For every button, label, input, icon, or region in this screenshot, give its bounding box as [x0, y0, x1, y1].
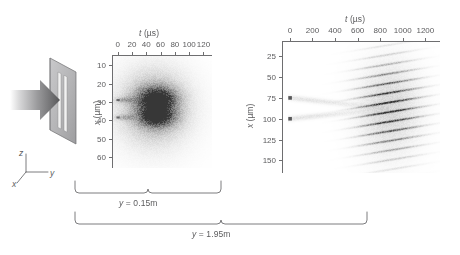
near-field-x-tick-label: 120: [197, 40, 210, 49]
far-field-distance-label: y = 1.95m: [192, 229, 230, 239]
axis-label-x: x: [11, 179, 17, 187]
far-field-density-canvas: [282, 42, 440, 173]
near-field-x-label-unit: (µs): [141, 28, 159, 38]
near-field-x-tick-label: 40: [142, 40, 151, 49]
near-field-y-tick: [109, 157, 112, 158]
far-field-x-tick: [290, 38, 291, 41]
far-field-panel: [282, 42, 440, 173]
near-field-y-tick-label: 60: [97, 152, 106, 161]
far-field-y-tick: [279, 98, 282, 99]
far-field-y-axis-label: x (µm): [245, 104, 255, 128]
axis-label-y: y: [49, 168, 55, 178]
near-field-x-tick: [132, 52, 133, 55]
near-field-x-tick: [189, 52, 190, 55]
far-field-y-tick-label: 150: [263, 156, 276, 165]
far-field-x-tick-label: 1000: [394, 26, 412, 35]
far-field-y-tick-label: 100: [263, 114, 276, 123]
near-field-distance-label: y = 0.15m: [119, 198, 157, 208]
far-field-x-tick-label: 0: [288, 26, 292, 35]
near-field-y-label-unit: (µm): [92, 101, 102, 121]
near-field-y-tick: [109, 139, 112, 140]
far-field-y-tick: [279, 119, 282, 120]
axis-label-z: z: [18, 148, 24, 158]
near-field-x-axis: [112, 55, 212, 56]
far-field-x-axis-label: t (µs): [345, 14, 365, 24]
far-field-y-tick: [279, 56, 282, 57]
far-field-x-tick-label: 200: [306, 26, 319, 35]
far-field-x-tick-label: 1200: [416, 26, 434, 35]
figure-root: z y x 020406080100120102030405060 t (µs)…: [0, 0, 460, 255]
near-field-distance-bracket: [74, 180, 224, 196]
near-field-y-tick: [109, 84, 112, 85]
far-field-x-tick: [358, 38, 359, 41]
near-field-y-axis-label: x (µm): [92, 101, 102, 125]
near-field-x-tick-label: 60: [156, 40, 165, 49]
far-field-y-tick-label: 50: [267, 73, 276, 82]
far-field-y-tick-label: 75: [267, 93, 276, 102]
far-field-y-label-symbol: x: [245, 124, 255, 128]
far-field-y-tick: [279, 140, 282, 141]
schematic-svg: z y x: [8, 52, 100, 187]
far-field-y-axis: [282, 41, 283, 173]
far-field-y-tick: [279, 160, 282, 161]
near-field-x-tick-label: 100: [182, 40, 195, 49]
near-field-x-axis-label: t (µs): [139, 28, 159, 38]
near-field-x-tick: [118, 52, 119, 55]
near-field-y-tick: [109, 102, 112, 103]
near-field-x-tick: [203, 52, 204, 55]
near-field-x-tick: [146, 52, 147, 55]
near-field-x-tick-label: 20: [128, 40, 137, 49]
near-field-y-label-symbol: x: [92, 121, 102, 125]
far-field-x-tick: [335, 38, 336, 41]
far-field-y-label-unit: (µm): [245, 104, 255, 124]
near-field-y-axis: [112, 55, 113, 168]
near-field-distance-value: = 0.15m: [123, 198, 157, 208]
near-field-x-tick: [161, 52, 162, 55]
far-field-x-label-unit: (µs): [347, 14, 365, 24]
near-field-y-tick: [109, 65, 112, 66]
near-field-x-tick: [175, 52, 176, 55]
near-field-y-tick-label: 20: [97, 79, 106, 88]
far-field-y-tick: [279, 77, 282, 78]
far-field-x-tick: [312, 38, 313, 41]
near-field-y-tick-label: 10: [97, 61, 106, 70]
far-field-x-tick-label: 800: [373, 26, 386, 35]
far-field-x-tick: [425, 38, 426, 41]
far-field-x-tick-label: 600: [351, 26, 364, 35]
near-field-x-tick-label: 0: [115, 40, 119, 49]
near-field-y-tick-label: 50: [97, 134, 106, 143]
near-field-x-tick-label: 80: [170, 40, 179, 49]
coordinate-axes-triad: [17, 154, 48, 183]
near-field-y-tick: [109, 120, 112, 121]
beam-and-double-slit-schematic: z y x: [8, 52, 100, 187]
far-field-x-tick: [380, 38, 381, 41]
far-field-distance-value: = 1.95m: [196, 229, 230, 239]
far-field-distance-bracket: [74, 211, 370, 227]
far-field-y-tick-label: 25: [267, 52, 276, 61]
far-field-x-tick-label: 400: [328, 26, 341, 35]
near-field-panel: [112, 56, 212, 168]
far-field-x-tick: [403, 38, 404, 41]
near-field-density-canvas: [112, 56, 212, 168]
far-field-x-axis: [282, 41, 440, 42]
far-field-y-tick-label: 125: [263, 135, 276, 144]
